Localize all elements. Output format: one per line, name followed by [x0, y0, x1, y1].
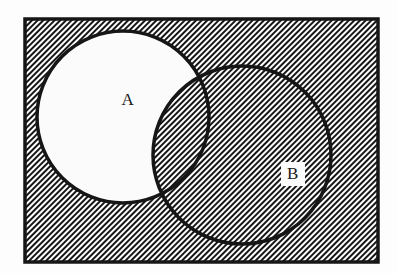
- venn-diagram-figure: A B: [0, 0, 397, 273]
- set-b-label: B: [287, 164, 299, 183]
- shaded-region: [25, 19, 378, 262]
- venn-diagram-canvas: A B: [0, 0, 397, 273]
- set-a-label-group: A: [122, 90, 135, 109]
- set-b-label-group: B: [281, 162, 305, 186]
- set-a-label: A: [122, 90, 135, 109]
